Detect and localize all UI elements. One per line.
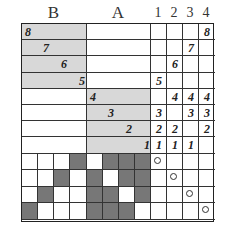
- tieup-cell: 8: [199, 24, 215, 40]
- tieup-cell: 3: [183, 105, 199, 121]
- header-a: A: [86, 4, 150, 22]
- row-label: 7: [43, 40, 49, 56]
- tieup-cell: [167, 40, 183, 56]
- tieup-cell: [151, 24, 167, 40]
- treadle-cell: [151, 170, 167, 187]
- treadle-cell: [151, 203, 167, 220]
- treadle-cell: [199, 154, 215, 171]
- tieup-cell: 2: [199, 121, 215, 137]
- tieup-cell: 3: [199, 105, 215, 121]
- drawdown-cell: [87, 154, 103, 171]
- drawdown-cell: [54, 187, 70, 204]
- a-cell: [87, 89, 151, 105]
- tieup-cell: 3: [151, 105, 167, 121]
- tieup-cell: 4: [199, 89, 215, 105]
- b-cell: [22, 73, 87, 89]
- drawdown-cell: [119, 187, 135, 204]
- b-cell: [22, 24, 87, 40]
- header-b: B: [21, 4, 86, 22]
- header-col-3: 3: [182, 4, 198, 22]
- tieup-cell: 1: [151, 137, 167, 153]
- a-cell: [87, 24, 151, 40]
- treadle-cell: [199, 170, 215, 187]
- tieup-cell: [151, 40, 167, 56]
- b-cell: [22, 105, 87, 121]
- header-col-2: 2: [166, 4, 182, 22]
- tieup-cell: 2: [167, 121, 183, 137]
- tieup-cell: [183, 73, 199, 89]
- treadle-cell: [183, 187, 199, 204]
- drawdown-cell: [38, 154, 54, 171]
- tieup-mark: 8: [204, 24, 210, 40]
- treadle-circle-icon: [154, 157, 161, 164]
- header-col-1: 1: [150, 4, 166, 22]
- a-cell: [87, 121, 151, 137]
- drawdown-cell: [38, 187, 54, 204]
- tieup-cell: [151, 89, 167, 105]
- treadle-cell: [183, 203, 199, 220]
- tieup-mark: 2: [204, 121, 210, 137]
- tieup-cell: [183, 121, 199, 137]
- tieup-mark: 3: [188, 105, 194, 121]
- drawdown-cell: [135, 154, 151, 171]
- tieup-cell: [199, 40, 215, 56]
- tieup-mark: 3: [156, 105, 162, 121]
- tieup-cell: 2: [151, 121, 167, 137]
- header-col-4: 4: [198, 4, 214, 22]
- row-label: 4: [90, 89, 96, 105]
- b-cell: [22, 89, 87, 105]
- row-label: 1: [144, 137, 150, 153]
- tieup-cell: [183, 56, 199, 72]
- drawdown-cell: [38, 203, 54, 220]
- tieup-mark: 4: [204, 89, 210, 105]
- drawdown-cell: [103, 203, 119, 220]
- row-label: 6: [61, 56, 67, 72]
- tieup-mark: 2: [156, 121, 162, 137]
- tieup-cell: 6: [167, 56, 183, 72]
- a-cell: [87, 40, 151, 56]
- tieup-mark: 7: [188, 40, 194, 56]
- row-label: 8: [25, 24, 31, 40]
- drawdown-cell: [119, 203, 135, 220]
- row-label: 2: [126, 121, 132, 137]
- drawdown-cell: [54, 203, 70, 220]
- tieup-cell: [167, 105, 183, 121]
- drawdown-cell: [103, 187, 119, 204]
- treadle-circle-icon: [202, 206, 209, 213]
- tieup-cell: [167, 24, 183, 40]
- drawdown-cell: [135, 187, 151, 204]
- tieup-cell: [167, 73, 183, 89]
- tieup-cell: 1: [167, 137, 183, 153]
- treadle-cell: [151, 187, 167, 204]
- row-label: 5: [79, 73, 85, 89]
- tieup-mark: 5: [156, 73, 162, 89]
- a-cell: [87, 56, 151, 72]
- drawdown-cell: [103, 170, 119, 187]
- drawdown-cell: [70, 170, 86, 187]
- tieup-cell: [151, 56, 167, 72]
- b-cell: [22, 56, 87, 72]
- drawdown-cell: [87, 203, 103, 220]
- drawdown-cell: [22, 187, 38, 204]
- tieup-cell: [199, 73, 215, 89]
- drawdown-cell: [103, 154, 119, 171]
- drawdown-cell: [70, 203, 86, 220]
- tieup-mark: 1: [156, 137, 162, 153]
- drawdown-cell: [22, 154, 38, 171]
- drawdown-cell: [70, 187, 86, 204]
- tieup-cell: [199, 56, 215, 72]
- tieup-cell: 4: [167, 89, 183, 105]
- threading-diagram: 887766554444333322221111: [21, 23, 214, 222]
- a-cell: [87, 105, 151, 121]
- b-cell: [22, 121, 87, 137]
- b-cell: [22, 40, 87, 56]
- tieup-mark: 1: [172, 137, 178, 153]
- treadle-cell: [183, 154, 199, 171]
- tieup-mark: 6: [172, 56, 178, 72]
- treadle-circle-icon: [170, 173, 177, 180]
- drawdown-cell: [70, 154, 86, 171]
- treadle-cell: [167, 187, 183, 204]
- treadle-cell: [167, 203, 183, 220]
- b-cell: [22, 137, 87, 153]
- tieup-mark: 4: [188, 89, 194, 105]
